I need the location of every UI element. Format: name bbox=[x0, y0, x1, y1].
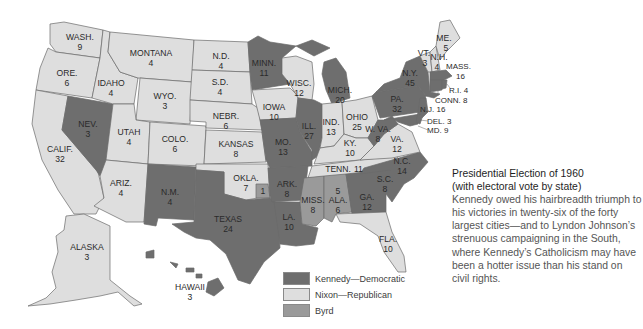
swatch-nixon bbox=[283, 288, 310, 301]
swatch-byrd bbox=[283, 304, 310, 317]
label-pa: PA.32 bbox=[390, 94, 403, 114]
label-hawaii: HAWAII3 bbox=[175, 282, 205, 302]
legend-item-byrd: Byrd bbox=[283, 303, 405, 318]
legend-label: Byrd bbox=[315, 306, 334, 316]
label-md: MD. 9 bbox=[427, 126, 449, 135]
label-tenn: TENN.11 bbox=[325, 164, 363, 174]
label-mass: MASS.16 bbox=[446, 62, 471, 81]
state-mass bbox=[430, 70, 452, 80]
legend-item-kennedy: Kennedy—Democratic bbox=[283, 271, 405, 286]
label-del: DEL. 3 bbox=[427, 117, 452, 126]
state-conn bbox=[430, 80, 442, 92]
swatch-kennedy bbox=[283, 272, 310, 285]
state-ri bbox=[442, 80, 447, 89]
legend-label: Nixon—Republican bbox=[315, 290, 392, 300]
label-ri: R.I. 4 bbox=[449, 86, 469, 95]
label-nj: N.J. 16 bbox=[420, 105, 446, 114]
label-va: VA.12 bbox=[390, 134, 403, 154]
caption-body: Kennedy owed his hairbreadth triumph to … bbox=[452, 193, 642, 285]
map-caption: Presidential Election of 1960 (with elec… bbox=[452, 167, 642, 285]
label-la: LA.10 bbox=[283, 212, 296, 232]
label-ky: KY.10 bbox=[344, 138, 357, 158]
legend: Kennedy—Democratic Nixon—Republican Byrd bbox=[283, 271, 405, 319]
label-conn: CONN. 8 bbox=[435, 96, 468, 105]
caption-title: Presidential Election of 1960 bbox=[452, 167, 642, 180]
legend-item-nixon: Nixon—Republican bbox=[283, 287, 405, 302]
caption-subtitle: (with electoral vote by state) bbox=[452, 180, 642, 193]
legend-label: Kennedy—Democratic bbox=[315, 274, 405, 284]
label-okla-byrd: 1 bbox=[261, 186, 266, 196]
